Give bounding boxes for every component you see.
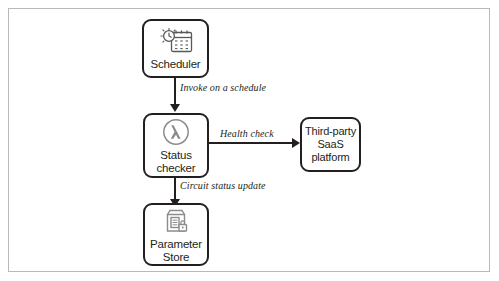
diagram-canvas: Invoke on a schedule Health check Circui… [0, 0, 499, 281]
node-scheduler-label: Scheduler [151, 57, 201, 71]
node-status-checker[interactable]: Status checker [143, 113, 209, 178]
node-saas-platform[interactable]: Third-party SaaS platform [300, 117, 361, 172]
arrowhead-status-checker-to-saas-platform [292, 138, 300, 148]
edge-label-invoke-on-a-schedule: Invoke on a schedule [180, 82, 266, 93]
clock-calendar-icon [158, 27, 194, 55]
connector-status-checker-to-saas-platform [209, 142, 293, 144]
node-status-checker-label: Status checker [157, 149, 196, 174]
document-lock-icon [161, 206, 191, 236]
node-parameter-store-label: Parameter Store [150, 238, 202, 263]
arrowhead-scheduler-to-status-checker [170, 104, 180, 112]
diagram-frame [8, 8, 490, 272]
edge-label-circuit-status-update: Circuit status update [180, 180, 266, 191]
node-parameter-store[interactable]: Parameter Store [143, 203, 209, 266]
lambda-function-icon [161, 117, 191, 147]
edge-label-health-check: Health check [220, 128, 274, 139]
node-saas-platform-label: Third-party SaaS platform [305, 125, 356, 164]
node-scheduler[interactable]: Scheduler [142, 19, 209, 78]
